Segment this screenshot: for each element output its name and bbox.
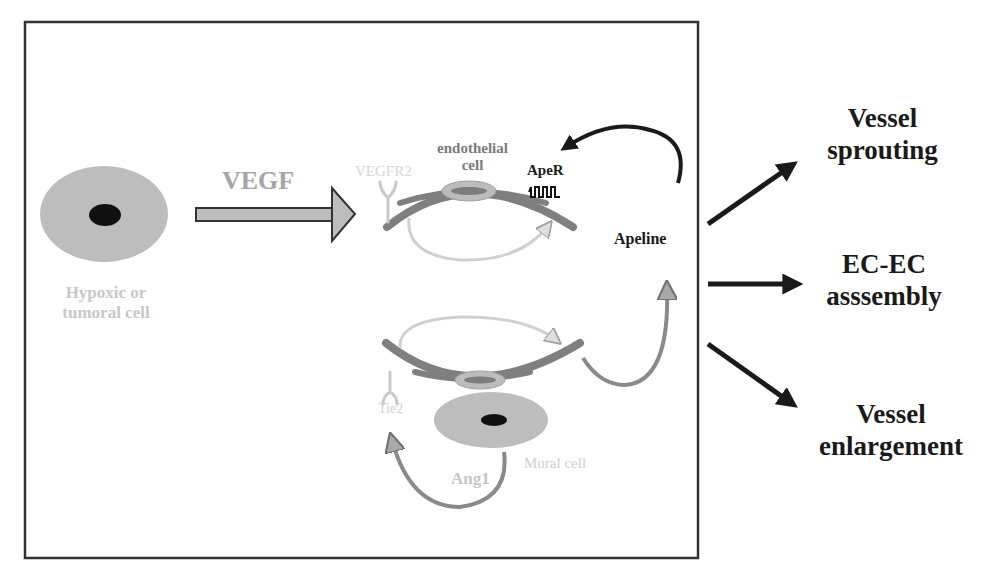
internal-signal-arrow-top: [409, 218, 548, 260]
vegfr2-label: VEGFR2: [355, 163, 412, 180]
outcome-line2: asssembly: [814, 280, 954, 312]
outcome-vessel-enlargement: Vessel enlargement: [806, 398, 976, 463]
tie2-receptor-icon: [383, 372, 397, 404]
ang1-label: Ang1: [451, 469, 490, 489]
outcome-line2: enlargement: [806, 430, 976, 462]
outcome-line1: Vessel: [820, 102, 945, 134]
endothelial-cell-label: endothelial cell: [425, 140, 520, 175]
outcome-line1: EC-EC: [814, 248, 954, 280]
endothelial-label-line2: cell: [425, 157, 520, 174]
mural-cell: [434, 392, 548, 448]
hypoxic-cell: [40, 166, 168, 262]
outcome-arrow-sprouting: [708, 166, 791, 224]
vessel-to-apeline-arrow: [583, 288, 667, 385]
tie2-label: Tie2: [378, 401, 403, 417]
mural-cell-label: Mural cell: [524, 455, 586, 472]
source-cell-label-line1: Hypoxic or: [36, 283, 176, 303]
outcome-vessel-sprouting: Vessel sprouting: [820, 102, 945, 167]
vegfr2-receptor-icon: [380, 182, 396, 222]
outcome-line1: Vessel: [806, 398, 976, 430]
outcome-arrow-enlargement: [708, 344, 791, 403]
endothelial-label-line1: endothelial: [425, 140, 520, 157]
internal-signal-arrow-bottom: [400, 317, 556, 348]
source-cell-label-line2: tumoral cell: [36, 303, 176, 323]
outcome-line2: sprouting: [820, 134, 945, 166]
aper-receptor-icon: [529, 187, 560, 197]
source-cell-label: Hypoxic or tumoral cell: [36, 283, 176, 322]
vegf-label: VEGF: [222, 166, 294, 196]
vegf-arrow-icon: [196, 188, 355, 241]
aper-label: ApeR: [527, 162, 564, 179]
apeline-to-aper-arrow: [566, 126, 681, 183]
apeline-label: Apeline: [614, 230, 666, 248]
endothelial-cell-bottom: [386, 343, 580, 389]
outcome-ec-ec-assembly: EC-EC asssembly: [814, 248, 954, 313]
